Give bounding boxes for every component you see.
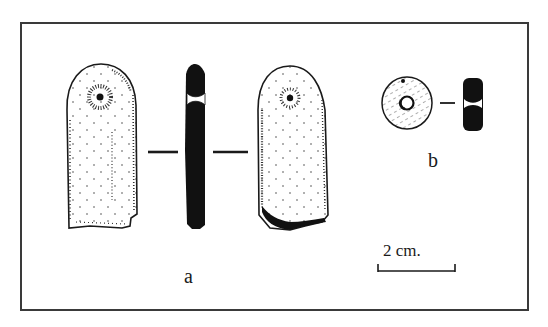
- object-a-section: [185, 64, 205, 229]
- figure-plate: a b 2 cm.: [0, 0, 548, 327]
- perforation-hole: [97, 94, 104, 101]
- object-a-back-view: [258, 66, 328, 230]
- scale-bar: [378, 264, 455, 272]
- perforation-hole: [287, 95, 293, 101]
- object-b-face-view: [382, 77, 432, 129]
- object-a-front-view: [67, 64, 137, 228]
- object-label-a: a: [184, 266, 193, 286]
- object-label-b: b: [428, 150, 438, 170]
- drawing-canvas: [0, 0, 548, 327]
- object-b-section: [463, 78, 483, 131]
- scale-bar-label: 2 cm.: [383, 241, 421, 261]
